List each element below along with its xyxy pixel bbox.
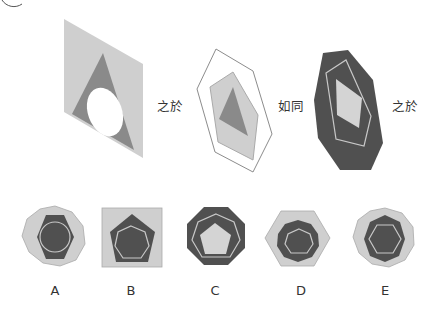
option-a-figure[interactable] — [22, 206, 85, 266]
question-number-circle — [2, 0, 22, 7]
connector-text-2: 如同 — [278, 96, 304, 115]
option-c-label[interactable]: C — [205, 283, 225, 298]
option-d-figure[interactable] — [265, 211, 330, 266]
connector-text-3: 之於 — [392, 96, 418, 115]
option-b-label[interactable]: B — [121, 283, 141, 298]
analogy-figure — [0, 0, 440, 316]
option-e-figure[interactable] — [353, 208, 414, 267]
figure-1 — [64, 19, 143, 158]
option-e-label[interactable]: E — [375, 283, 395, 298]
option-b-figure[interactable] — [102, 208, 162, 267]
option-d-label[interactable]: D — [291, 283, 311, 298]
figure-2 — [197, 49, 272, 172]
option-c-figure[interactable] — [187, 207, 245, 265]
figure-3 — [314, 50, 383, 170]
connector-text-1: 之於 — [157, 96, 183, 115]
option-a-label[interactable]: A — [45, 283, 65, 298]
